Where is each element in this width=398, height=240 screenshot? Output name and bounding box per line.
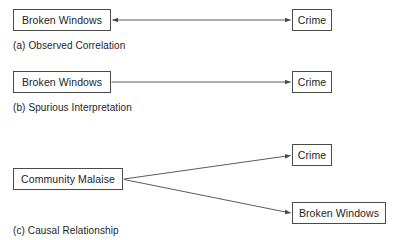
node-crime-c: Crime <box>292 144 332 166</box>
node-community-malaise: Community Malaise <box>13 168 123 190</box>
caption-causal-relationship: (c) Causal Relationship <box>13 226 119 236</box>
caption-spurious-interpretation: (b) Spurious Interpretation <box>13 103 132 113</box>
causal-diagram-figure: Broken Windows Crime (a) Observed Correl… <box>0 0 398 240</box>
edge-c-to-crime <box>124 156 291 180</box>
node-crime-b: Crime <box>292 71 332 93</box>
node-broken-windows-a: Broken Windows <box>13 9 111 31</box>
node-crime-a: Crime <box>292 9 332 31</box>
caption-observed-correlation: (a) Observed Correlation <box>13 41 125 51</box>
node-broken-windows-c: Broken Windows <box>292 202 386 224</box>
edge-c-to-broken-windows <box>124 180 291 214</box>
node-broken-windows-b: Broken Windows <box>13 71 111 93</box>
